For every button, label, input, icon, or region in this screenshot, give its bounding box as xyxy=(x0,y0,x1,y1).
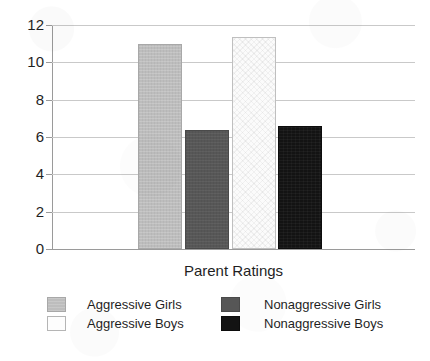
bar-aggressive-boys xyxy=(232,37,276,249)
y-tick-label-4: 4 xyxy=(0,166,44,181)
legend-label-nonaggressive-girls: Nonaggressive Girls xyxy=(264,297,381,312)
legend-label-aggressive-boys: Aggressive Boys xyxy=(87,316,184,331)
x-axis-label: Parent Ratings xyxy=(52,262,415,280)
legend-swatch-icon-aggressive-boys xyxy=(47,316,66,331)
legend-item-nonaggressive-boys: Nonaggressive Boys xyxy=(221,315,383,332)
y-tick-label-6: 6 xyxy=(0,129,44,144)
gridline-12 xyxy=(52,25,415,26)
bar-nonaggressive-girls xyxy=(185,130,229,249)
legend-label-aggressive-girls: Aggressive Girls xyxy=(87,297,182,312)
bar-nonaggressive-boys xyxy=(278,126,322,249)
bar-aggressive-girls xyxy=(138,44,182,249)
gridline-0 xyxy=(52,249,415,250)
y-tick-label-12: 12 xyxy=(0,17,44,32)
legend-swatch-icon-nonaggressive-girls xyxy=(221,297,240,312)
plot-area xyxy=(52,25,415,249)
legend-swatch-icon-aggressive-girls xyxy=(47,297,66,312)
y-tick-label-8: 8 xyxy=(0,92,44,107)
legend-swatch-icon-nonaggressive-boys xyxy=(221,316,240,331)
y-tick-label-0: 0 xyxy=(0,241,44,256)
legend-item-aggressive-girls: Aggressive Girls xyxy=(47,296,182,313)
y-axis-tick-labels: 12 10 8 6 4 2 0 xyxy=(0,0,44,361)
y-tick-label-10: 10 xyxy=(0,54,44,69)
chart-legend: Aggressive Girls Aggressive Boys Nonaggr… xyxy=(45,296,395,342)
bar-chart-figure: 12 10 8 6 4 2 0 Parent Ratings Aggressiv… xyxy=(0,0,430,361)
legend-item-nonaggressive-girls: Nonaggressive Girls xyxy=(221,296,381,313)
legend-label-nonaggressive-boys: Nonaggressive Boys xyxy=(264,316,383,331)
legend-item-aggressive-boys: Aggressive Boys xyxy=(47,315,184,332)
y-tick-label-2: 2 xyxy=(0,204,44,219)
